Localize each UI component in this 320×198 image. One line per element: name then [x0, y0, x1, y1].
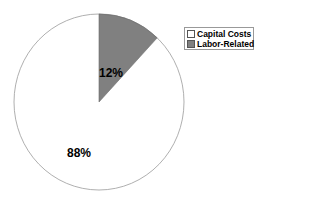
legend-swatch-labor-related	[187, 40, 195, 48]
legend-label: Capital Costs	[197, 29, 251, 39]
legend-label: Labor-Related	[197, 39, 254, 49]
legend-item-labor-related: Labor-Related	[187, 39, 253, 49]
legend-swatch-capital-costs	[187, 30, 195, 38]
chart-legend: Capital Costs Labor-Related	[184, 27, 254, 50]
legend-item-capital-costs: Capital Costs	[187, 29, 253, 39]
slice-label-labor-related: 12%	[99, 67, 123, 79]
slice-label-capital-costs: 88%	[67, 147, 91, 159]
